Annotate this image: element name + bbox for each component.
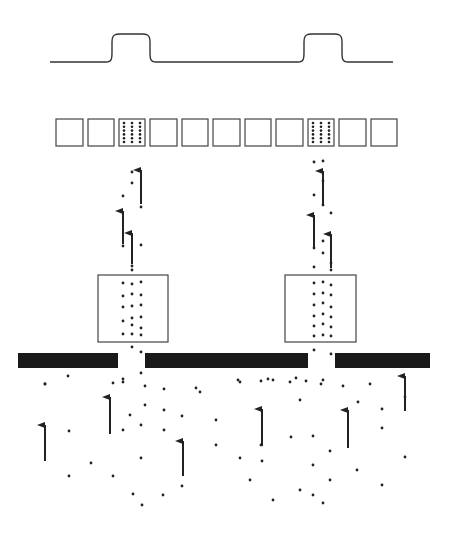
- particle-dot: [131, 333, 134, 336]
- particle-dot: [305, 380, 308, 383]
- particle-dot: [313, 325, 316, 328]
- particle-dot: [140, 424, 143, 427]
- particle-dot: [322, 252, 325, 255]
- cell-particle-dot: [312, 129, 315, 132]
- cell-particle-dot: [131, 129, 134, 132]
- cell-particle-dot: [123, 137, 126, 140]
- particle-dot: [144, 404, 147, 407]
- particle-dot: [330, 212, 333, 215]
- particle-dot: [131, 305, 134, 308]
- particle-dot: [131, 317, 134, 320]
- particle-dot: [322, 379, 325, 382]
- particle-dot: [313, 335, 316, 338]
- detector-cell: [245, 119, 271, 146]
- detector-cell: [371, 119, 397, 146]
- cell-particle-dot: [131, 133, 134, 136]
- detector-cell: [150, 119, 177, 146]
- particle-dot: [199, 391, 202, 394]
- particle-dot: [44, 383, 47, 386]
- particle-dot: [237, 379, 240, 382]
- particle-dot: [320, 383, 323, 386]
- cell-particle-dot: [131, 141, 134, 144]
- particle-dot: [322, 292, 325, 295]
- particle-dot: [122, 295, 125, 298]
- cell-particle-dot: [139, 129, 142, 132]
- particle-dot: [330, 326, 333, 329]
- particle-dot: [122, 333, 125, 336]
- cell-particle-dot: [320, 137, 323, 140]
- cell-particle-dot: [139, 122, 142, 125]
- particle-dot: [312, 435, 315, 438]
- cell-particle-dot: [312, 126, 315, 129]
- cell-particle-dot: [328, 126, 331, 129]
- particle-dot: [330, 306, 333, 309]
- particle-dot: [267, 378, 270, 381]
- particle-dot: [330, 294, 333, 297]
- particle-dot: [215, 419, 218, 422]
- particle-dot: [163, 388, 166, 391]
- particle-dot: [140, 457, 143, 460]
- particle-dot: [67, 375, 70, 378]
- cell-particle-dot: [312, 141, 315, 144]
- particle-dot: [90, 462, 93, 465]
- particle-dot: [312, 464, 315, 467]
- particle-dot: [131, 182, 134, 185]
- detector-cell-row: [56, 119, 397, 146]
- particle-dot: [322, 313, 325, 316]
- barrier-wall: [18, 353, 430, 368]
- particle-dot: [330, 284, 333, 287]
- particle-dot: [290, 436, 293, 439]
- particle-dot: [122, 282, 125, 285]
- particle-dot: [272, 379, 275, 382]
- particle-dot: [313, 266, 316, 269]
- particle-dot: [356, 469, 359, 472]
- particle-dot: [163, 429, 166, 432]
- cell-particle-dot: [328, 133, 331, 136]
- particle-dot: [261, 460, 264, 463]
- particle-dot: [330, 316, 333, 319]
- particle-dot: [140, 304, 143, 307]
- particle-dot: [313, 293, 316, 296]
- detector-cell: [56, 119, 83, 146]
- cell-particle-dot: [131, 122, 134, 125]
- barrier-segment: [335, 353, 430, 368]
- particle-dot: [122, 378, 125, 381]
- particle-dot: [140, 372, 143, 375]
- particle-dot: [342, 385, 345, 388]
- particle-dot: [181, 415, 184, 418]
- particle-dot: [131, 324, 134, 327]
- cell-particle-dot: [328, 137, 331, 140]
- particle-dot: [313, 161, 316, 164]
- particle-dot: [322, 240, 325, 243]
- cell-particle-dot: [123, 129, 126, 132]
- particle-dot: [140, 206, 143, 209]
- particle-dot: [239, 457, 242, 460]
- cell-particle-dot: [123, 133, 126, 136]
- cell-particle-dot: [139, 137, 142, 140]
- cell-particle-dot: [312, 137, 315, 140]
- cell-particle-dot: [139, 141, 142, 144]
- particle-dot: [163, 409, 166, 412]
- particle-dot: [122, 245, 125, 248]
- cell-particle-dot: [123, 122, 126, 125]
- cell-particle-dot: [139, 133, 142, 136]
- particle-dot: [122, 306, 125, 309]
- particle-dot: [131, 283, 134, 286]
- particle-dot: [322, 281, 325, 284]
- cell-particle-dot: [320, 141, 323, 144]
- particle-dot: [144, 385, 147, 388]
- particle-dot: [140, 294, 143, 297]
- particle-dot: [329, 479, 332, 482]
- cell-particle-dot: [123, 141, 126, 144]
- barrier-segment: [145, 353, 308, 368]
- particle-dot: [272, 499, 275, 502]
- particle-dot: [141, 504, 144, 507]
- particle-dot: [112, 475, 115, 478]
- particle-dot: [122, 195, 125, 198]
- collector-box: [285, 275, 356, 342]
- cell-particle-dot: [328, 129, 331, 132]
- particle-dot: [313, 282, 316, 285]
- motion-arrows: [45, 170, 405, 476]
- particle-dot: [68, 430, 71, 433]
- particle-dot: [313, 349, 316, 352]
